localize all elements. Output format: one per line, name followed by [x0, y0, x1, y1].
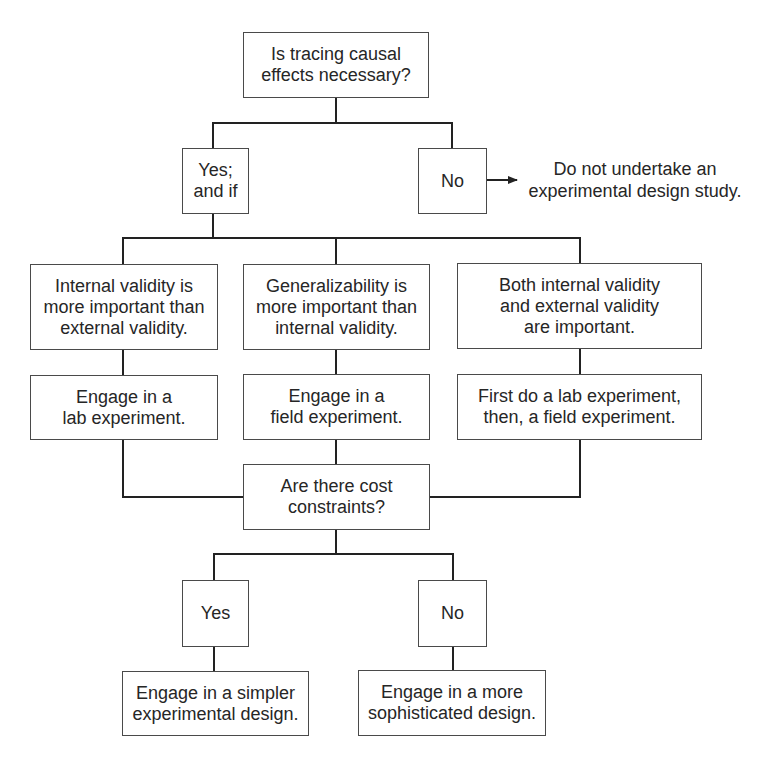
condition-generalizability: Generalizability is more important than … — [243, 264, 430, 350]
answer-yes: Yes — [182, 580, 249, 647]
answer-no: No — [418, 148, 487, 214]
outcome-sophisticated-design: Engage in a more sophisticated design. — [358, 670, 546, 736]
question-cost-constraints: Are there cost constraints? — [243, 464, 430, 530]
outcome-no-experimental-study: Do not undertake an experimental design … — [520, 158, 750, 202]
action-field-experiment: Engage in a field experiment. — [243, 374, 430, 440]
action-lab-then-field: First do a lab experiment, then, a field… — [457, 374, 702, 440]
edge-both-to-q2 — [429, 439, 580, 497]
edge-lab-to-q2 — [123, 439, 243, 497]
action-lab-experiment: Engage in a lab experiment. — [30, 375, 218, 440]
question-tracing-causal-effects: Is tracing causal effects necessary? — [243, 32, 429, 98]
condition-both-validities: Both internal validity and external vali… — [457, 263, 702, 349]
experimental-design-flowchart: Is tracing causal effects necessary? Yes… — [0, 0, 761, 761]
answer-no-cost: No — [418, 580, 487, 647]
condition-internal-validity: Internal validity is more important than… — [30, 264, 218, 350]
outcome-simpler-design: Engage in a simpler experimental design. — [122, 671, 309, 736]
answer-yes-and-if: Yes; and if — [182, 148, 249, 214]
